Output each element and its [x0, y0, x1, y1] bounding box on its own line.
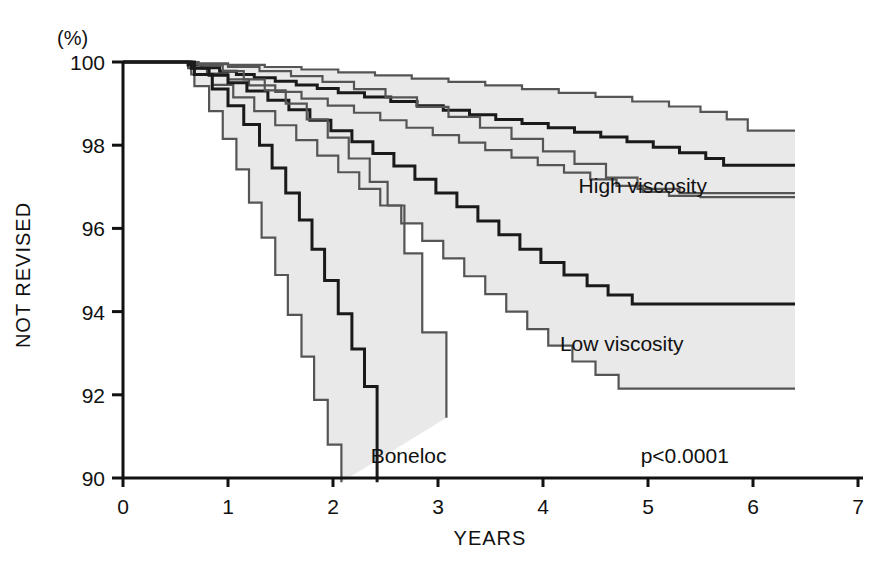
- x-tick-label: 3: [432, 495, 444, 518]
- x-tick-label: 2: [327, 495, 339, 518]
- x-tick-label: 6: [747, 495, 759, 518]
- x-tick-label: 1: [222, 495, 234, 518]
- y-tick-label: 98: [82, 134, 105, 157]
- y-tick-label: 96: [82, 217, 105, 240]
- annotation-p-0-0001: p<0.0001: [641, 444, 729, 467]
- x-tick-label: 7: [852, 495, 864, 518]
- y-unit-label: (%): [57, 27, 88, 49]
- annotation-low-viscosity: Low viscosity: [560, 332, 684, 355]
- annotation-boneloc: Boneloc: [371, 444, 447, 467]
- y-tick-label: 92: [82, 384, 105, 407]
- x-tick-label: 0: [117, 495, 129, 518]
- y-tick-label: 90: [82, 467, 105, 490]
- y-tick-label: 94: [82, 301, 106, 324]
- x-tick-label: 4: [537, 495, 549, 518]
- y-axis-title: NOT REVISED: [12, 202, 34, 348]
- y-tick-label: 100: [70, 51, 105, 74]
- chart-figure: 012345679092949698100 High viscosityLow …: [0, 0, 887, 569]
- x-axis-title: YEARS: [454, 527, 527, 549]
- survival-curve-chart: 012345679092949698100 High viscosityLow …: [0, 0, 887, 569]
- annotation-high-viscosity: High viscosity: [579, 174, 708, 197]
- x-tick-label: 5: [642, 495, 654, 518]
